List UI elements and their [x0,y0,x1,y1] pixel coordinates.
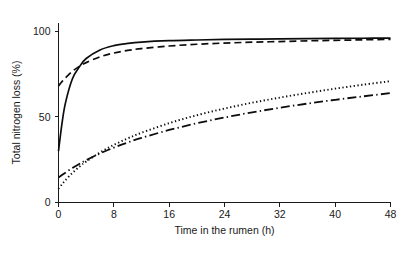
x-tick-label: 24 [219,208,231,220]
y-axis-title: Total nitrogen loss (%) [10,61,22,165]
series-line-dash-dot [59,93,391,178]
y-tick-label: 50 [39,111,51,123]
x-axis-title: Time in the rumen (h) [175,224,275,236]
x-axis-ticks: 081624324048 [56,203,397,220]
x-tick-label: 32 [274,208,286,220]
x-tick-label: 8 [111,208,117,220]
chart-figure: 050100 081624324048 Time in the rumen (h… [0,0,408,255]
x-tick-label: 16 [163,208,175,220]
y-axis-ticks: 050100 [33,25,59,208]
y-tick-label: 100 [33,25,51,37]
x-tick-label: 0 [56,208,62,220]
series-group [59,38,391,189]
x-tick-label: 48 [385,208,397,220]
x-tick-label: 40 [329,208,341,220]
series-line-dotted [59,81,391,189]
y-tick-label: 0 [45,196,51,208]
line-chart: 050100 081624324048 Time in the rumen (h… [0,0,408,255]
